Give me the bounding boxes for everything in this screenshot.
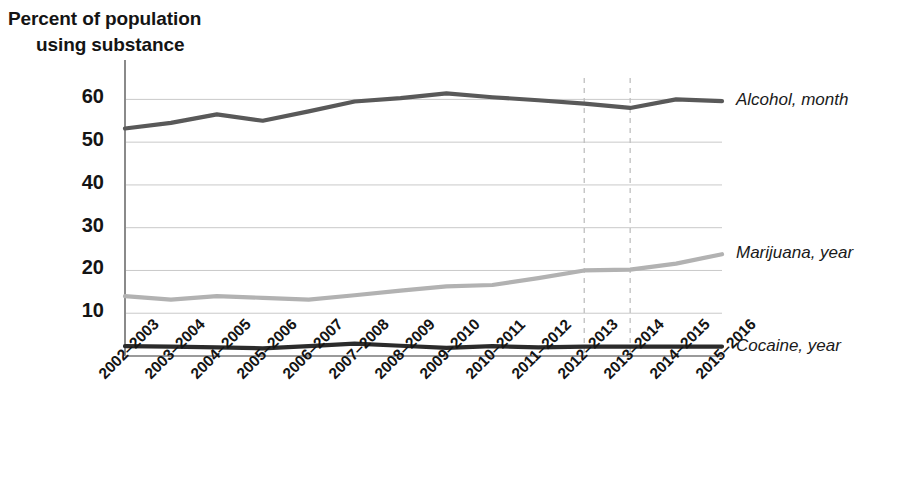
y-tick-label: 60 — [52, 85, 104, 108]
chart-container: Percent of population using substance 10… — [0, 0, 904, 482]
series-label: Cocaine, year — [736, 336, 841, 356]
plot-area — [0, 0, 904, 482]
series-label: Marijuana, year — [736, 243, 853, 263]
y-tick-label: 30 — [52, 214, 104, 237]
series-line — [125, 93, 722, 128]
y-tick-label: 10 — [52, 299, 104, 322]
series-label: Alcohol, month — [736, 90, 848, 110]
y-tick-label: 20 — [52, 256, 104, 279]
y-tick-label: 50 — [52, 128, 104, 151]
series-line — [125, 254, 722, 299]
y-tick-label: 40 — [52, 171, 104, 194]
